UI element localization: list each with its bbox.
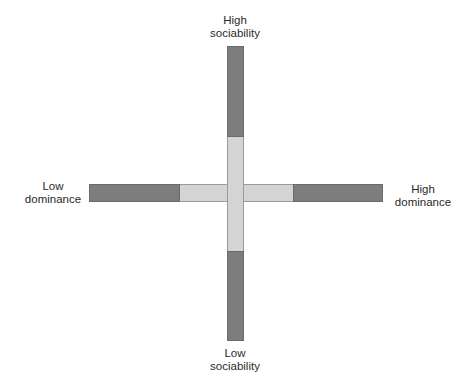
- label-line: sociability: [195, 27, 275, 40]
- label-high-dominance: High dominance: [384, 183, 462, 209]
- label-low-dominance: Low dominance: [18, 180, 88, 206]
- label-line: High: [384, 183, 462, 196]
- label-line: sociability: [195, 360, 275, 373]
- high-sociability-segment: [227, 46, 244, 137]
- label-line: Low: [195, 347, 275, 360]
- label-line: Low: [18, 180, 88, 193]
- label-low-sociability: Low sociability: [195, 347, 275, 373]
- label-line: dominance: [18, 193, 88, 206]
- label-high-sociability: High sociability: [195, 14, 275, 40]
- low-sociability-segment: [227, 251, 244, 341]
- center-intersection: [228, 185, 243, 201]
- low-dominance-segment: [89, 184, 180, 202]
- high-dominance-segment: [293, 184, 383, 202]
- label-line: dominance: [384, 196, 462, 209]
- label-line: High: [195, 14, 275, 27]
